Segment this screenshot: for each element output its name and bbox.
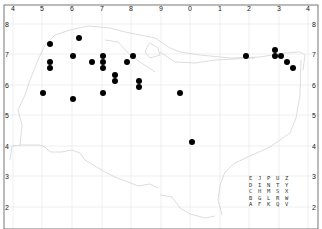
legend-row: B G L R W [249, 195, 290, 201]
legend-row: A F K Q V [249, 201, 290, 207]
map-canvas: 45678901234 8765432 8765432 E J P U ZD I… [0, 0, 322, 229]
y-tick-label-right: 5 [312, 112, 316, 119]
y-tick-label-right: 6 [312, 82, 316, 89]
y-tick-label: 4 [5, 143, 9, 150]
occurrence-point [47, 41, 53, 47]
occurrence-point [272, 53, 278, 59]
occurrence-point [272, 47, 278, 53]
occurrence-point [100, 90, 106, 96]
occurrence-point [76, 35, 82, 41]
occurrence-point [112, 72, 118, 78]
occurrence-point [100, 59, 106, 65]
x-tick-label: 7 [100, 5, 104, 12]
occurrence-point [112, 78, 118, 84]
x-tick-label: 8 [129, 5, 133, 12]
x-axis-labels: 45678901234 [11, 5, 310, 12]
occurrence-point [70, 53, 76, 59]
letter-grid-legend: E J P U ZD I N T YC H M S XB G L R WA F … [249, 175, 290, 207]
occurrence-point [130, 53, 136, 59]
x-tick-label: 4 [11, 5, 15, 12]
y-axis-labels-left: 8765432 [5, 21, 9, 211]
y-tick-label-right: 8 [312, 21, 316, 28]
occurrence-point [47, 59, 53, 65]
x-tick-label: 0 [188, 5, 192, 12]
occurrence-point [136, 78, 142, 84]
occurrence-point [290, 65, 296, 71]
y-tick-label-right: 3 [312, 173, 316, 180]
y-tick-label: 8 [5, 21, 9, 28]
y-tick-label-right: 4 [312, 143, 316, 150]
occurrence-point [89, 59, 95, 65]
y-tick-label-right: 7 [312, 51, 316, 58]
x-tick-label: 5 [40, 5, 44, 12]
x-tick-label: 3 [277, 5, 281, 12]
occurrence-point [177, 90, 183, 96]
occurrence-points [40, 35, 296, 145]
occurrence-point [284, 59, 290, 65]
x-tick-label: 1 [218, 5, 222, 12]
occurrence-point [278, 53, 284, 59]
x-tick-label: 2 [247, 5, 251, 12]
y-tick-label-right: 2 [312, 204, 316, 211]
occurrence-point [136, 84, 142, 90]
occurrence-point [124, 59, 130, 65]
x-tick-label: 4 [306, 5, 310, 12]
y-tick-label: 7 [5, 51, 9, 58]
y-tick-label: 6 [5, 82, 9, 89]
y-tick-label: 3 [5, 173, 9, 180]
y-tick-label: 2 [5, 204, 9, 211]
occurrence-point [100, 53, 106, 59]
y-axis-labels-right: 8765432 [312, 21, 316, 211]
occurrence-point [189, 139, 195, 145]
occurrence-point [243, 53, 249, 59]
x-tick-label: 9 [159, 5, 163, 12]
y-tick-label: 5 [5, 112, 9, 119]
occurrence-point [70, 96, 76, 102]
legend-row: D I N T Y [249, 182, 290, 188]
x-tick-label: 6 [70, 5, 74, 12]
occurrence-point [40, 90, 46, 96]
occurrence-point [100, 65, 106, 71]
legend-row: C H M S X [249, 188, 290, 194]
occurrence-point [47, 65, 53, 71]
legend-row: E J P U Z [249, 175, 290, 181]
